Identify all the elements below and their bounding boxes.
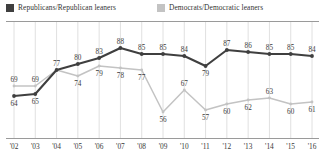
data-point (289, 52, 293, 56)
plot-svg: 6969747978775667576062636061646577808388… (0, 20, 325, 140)
x-tick-label: '16 (308, 141, 317, 153)
x-tick-label: '04 (52, 141, 61, 153)
data-value-label: 65 (32, 98, 40, 106)
x-tick-label: '02 (10, 141, 19, 153)
legend-swatch-democrats (157, 4, 165, 12)
legend-label-republicans: Republicans/Republican leaners (18, 3, 116, 13)
x-tick-label: '10 (180, 141, 189, 153)
data-value-label: 62 (245, 104, 253, 112)
data-point (98, 65, 101, 68)
legend-swatch-republicans (6, 4, 14, 12)
data-value-label: 85 (287, 44, 295, 52)
data-point (311, 101, 314, 104)
x-tick-label: '13 (244, 141, 253, 153)
data-point (12, 94, 16, 98)
legend-item-democrats[interactable]: Democrats/Democratic leaners (157, 3, 263, 13)
data-value-label: 64 (10, 100, 18, 108)
x-tick-label: '05 (73, 141, 82, 153)
data-value-label: 79 (202, 70, 210, 78)
data-value-label: 85 (138, 44, 146, 52)
x-tick-label: '07 (116, 141, 125, 153)
data-point (162, 111, 165, 114)
data-point (182, 54, 186, 58)
data-point (183, 89, 186, 92)
line-chart: Republicans/Republican leaners Democrats… (0, 0, 325, 167)
x-tick-label: '03 (31, 141, 40, 153)
data-point (97, 56, 101, 60)
data-value-label: 77 (138, 74, 146, 82)
data-point (225, 103, 228, 106)
data-point (140, 69, 143, 72)
data-value-label: 88 (117, 38, 125, 46)
data-value-label: 57 (202, 114, 210, 122)
data-point (34, 85, 37, 88)
data-point (33, 92, 37, 96)
x-axis: '02'03'04'05'06'07'08'09'10'11'12'13'14'… (0, 141, 325, 161)
data-point (225, 48, 229, 52)
data-value-label: 77 (53, 60, 61, 68)
data-point (13, 85, 16, 88)
x-tick-label: '15 (286, 141, 295, 153)
data-value-label: 79 (96, 70, 104, 78)
data-value-label: 60 (223, 108, 231, 116)
data-value-label: 67 (181, 80, 189, 88)
data-value-label: 63 (266, 88, 274, 96)
data-value-label: 69 (32, 76, 40, 84)
data-value-label: 74 (74, 80, 82, 88)
data-value-label: 87 (223, 40, 231, 48)
data-value-label: 60 (287, 108, 295, 116)
data-value-label: 83 (96, 48, 104, 56)
data-point (76, 62, 80, 66)
data-point (161, 52, 165, 56)
data-value-label: 84 (308, 46, 316, 54)
data-value-label: 69 (10, 76, 18, 84)
data-point (246, 50, 250, 54)
data-point (310, 54, 314, 58)
chart-legend: Republicans/Republican leaners Democrats… (0, 3, 325, 19)
data-value-label: 78 (117, 72, 125, 80)
x-tick-label: '14 (265, 141, 274, 153)
data-value-label: 84 (181, 46, 189, 54)
data-value-label: 86 (245, 42, 253, 50)
x-tick-label: '11 (201, 141, 209, 153)
legend-label-democrats: Democrats/Democratic leaners (169, 3, 263, 13)
data-value-label: 80 (74, 54, 82, 62)
x-tick-label: '12 (222, 141, 231, 153)
data-point (204, 109, 207, 112)
data-point (119, 46, 123, 50)
data-value-label: 61 (308, 106, 316, 114)
data-point (119, 67, 122, 70)
data-point (140, 52, 144, 56)
data-point (268, 97, 271, 100)
data-value-label: 56 (159, 116, 167, 124)
legend-item-republicans[interactable]: Republicans/Republican leaners (6, 3, 116, 13)
data-point (268, 52, 272, 56)
x-tick-label: '08 (137, 141, 146, 153)
data-point (289, 103, 292, 106)
data-point (55, 68, 59, 72)
x-tick-label: '09 (159, 141, 168, 153)
data-value-label: 85 (159, 44, 167, 52)
plot-area: 6969747978775667576062636061646577808388… (0, 20, 325, 140)
data-point (76, 75, 79, 78)
data-value-label: 85 (266, 44, 274, 52)
x-tick-label: '06 (95, 141, 104, 153)
data-point (204, 64, 208, 68)
data-point (247, 99, 250, 102)
